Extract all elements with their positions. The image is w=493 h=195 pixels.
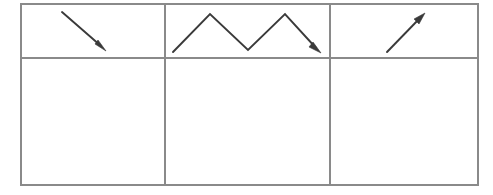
table-cell-r2c3[interactable] [330, 58, 478, 185]
table-cell-r2c1[interactable] [21, 58, 165, 185]
page-canvas [0, 0, 493, 195]
arrow-trend-table [0, 0, 493, 195]
table-cell-r1c1[interactable] [21, 4, 165, 58]
table-cell-r2c2[interactable] [165, 58, 330, 185]
table-cell-r1c3[interactable] [330, 4, 478, 58]
